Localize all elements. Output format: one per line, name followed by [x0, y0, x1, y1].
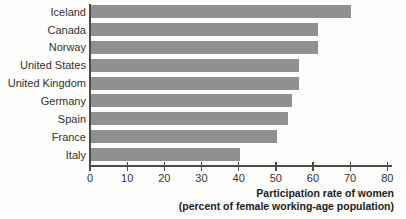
x-tick [164, 162, 165, 171]
x-tick [350, 162, 351, 171]
bar [91, 5, 351, 18]
bar [91, 130, 277, 143]
x-axis-line [89, 165, 392, 167]
bar [91, 77, 299, 90]
category-label: United Kingdom [0, 77, 86, 90]
x-tick [238, 162, 239, 171]
x-tick-label: 40 [224, 172, 254, 184]
bar [91, 41, 318, 54]
x-tick-label: 70 [335, 172, 365, 184]
bar-chart: IcelandCanadaNorwayUnited StatesUnited K… [0, 0, 406, 219]
x-tick-label: 60 [298, 172, 328, 184]
x-tick-label: 30 [186, 172, 216, 184]
bar [91, 23, 318, 36]
x-axis-title-line2: (percent of female working-age populatio… [179, 200, 394, 213]
bar [91, 148, 240, 161]
x-tick [89, 162, 90, 171]
category-label: United States [0, 59, 86, 72]
y-axis-line [89, 4, 91, 167]
category-label: Canada [0, 24, 86, 37]
x-tick-label: 10 [112, 172, 142, 184]
bar [91, 112, 288, 125]
bar [91, 94, 292, 107]
category-label: Germany [0, 95, 86, 108]
x-tick [312, 162, 313, 171]
x-tick [127, 162, 128, 171]
bar [91, 59, 299, 72]
category-label: Spain [0, 113, 86, 126]
category-label: Iceland [0, 6, 86, 19]
category-label: Italy [0, 149, 86, 162]
x-tick-label: 0 [75, 172, 105, 184]
category-label: Norway [0, 41, 86, 54]
x-tick-label: 80 [372, 172, 402, 184]
x-tick-label: 50 [261, 172, 291, 184]
x-axis-title-line1: Participation rate of women [256, 187, 394, 200]
category-label: France [0, 131, 86, 144]
x-tick [201, 162, 202, 171]
x-tick [387, 162, 388, 171]
x-tick-label: 20 [149, 172, 179, 184]
x-tick [275, 162, 276, 171]
